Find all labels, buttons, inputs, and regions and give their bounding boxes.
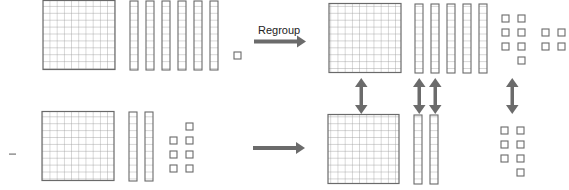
unit-cubes [501,127,524,176]
ten-rod [129,112,137,181]
unit-cube [558,43,565,50]
unit-cube [517,127,524,134]
ten-rod [414,115,422,184]
ten-rod [431,4,439,73]
ten-rod [210,1,218,70]
ten-rod [146,1,154,70]
ten-rods [415,4,487,73]
unit-cube [542,43,549,50]
unit-cube [542,29,549,36]
unit-cube [518,29,525,36]
unit-cube [170,137,177,144]
unit-cubes [170,123,193,172]
unit-cubes [502,15,565,64]
ten-rods [414,115,438,184]
unit-cube [518,57,525,64]
unit-cube [501,141,508,148]
bottom-left-group [9,112,193,182]
unit-cube [517,169,524,176]
up-down-arrow-icon [429,78,442,114]
up-down-arrow-icon [413,78,426,114]
top-right-group [329,4,565,74]
hundred-flat [42,112,114,181]
unit-cube [501,155,508,162]
unit-cube [518,15,525,22]
unit-cube [186,123,193,130]
ten-rod [430,115,438,184]
unit-cube [186,137,193,144]
bottom-right-group [328,115,524,185]
ten-rods [130,1,218,70]
right-arrow-icon [253,142,305,154]
unit-cube [170,165,177,172]
unit-cube [186,151,193,158]
ten-rod [178,1,186,70]
ten-rod [415,4,423,73]
up-down-arrow-icon [355,78,368,114]
ten-rod [447,4,455,73]
hundred-flat [329,4,401,73]
top-left-group [43,1,241,71]
unit-cube [186,165,193,172]
unit-cube [502,43,509,50]
unit-cube [517,141,524,148]
unit-cube [558,29,565,36]
hundred-flat [328,115,399,184]
regroup-label: Regroup [258,24,300,36]
unit-cube [518,43,525,50]
minus-sign [9,154,16,155]
right-arrow-icon [254,36,306,48]
ten-rod [463,4,471,73]
ten-rod [479,4,487,73]
up-down-arrow-icon [506,78,519,114]
ten-rod [194,1,202,70]
unit-cube [234,52,241,59]
unit-cube [502,29,509,36]
ten-rod [162,1,170,70]
unit-cube [170,151,177,158]
unit-cube [501,127,508,134]
ten-rod [130,1,138,70]
unit-cube [502,15,509,22]
ten-rod [145,112,153,181]
unit-cube [517,155,524,162]
hundred-flat [43,1,115,70]
ten-rods [129,112,153,181]
